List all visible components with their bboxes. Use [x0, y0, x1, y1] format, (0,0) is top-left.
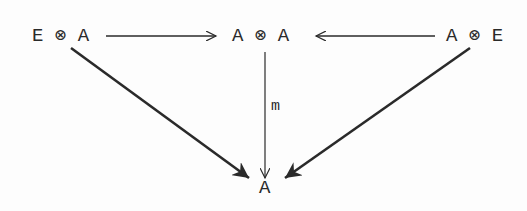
- node-a-tensor-e: A ⊗ E: [446, 27, 503, 46]
- node-a-tensor-a: A ⊗ A: [232, 27, 289, 46]
- diagram-canvas: E ⊗ A A ⊗ A A ⊗ E A m: [0, 0, 527, 211]
- node-a: A: [259, 179, 270, 198]
- label-m: m: [271, 99, 280, 114]
- arrow-left-to-bottom: [71, 48, 249, 178]
- arrow-right-to-bottom: [285, 48, 470, 178]
- node-e-tensor-a: E ⊗ A: [32, 27, 89, 46]
